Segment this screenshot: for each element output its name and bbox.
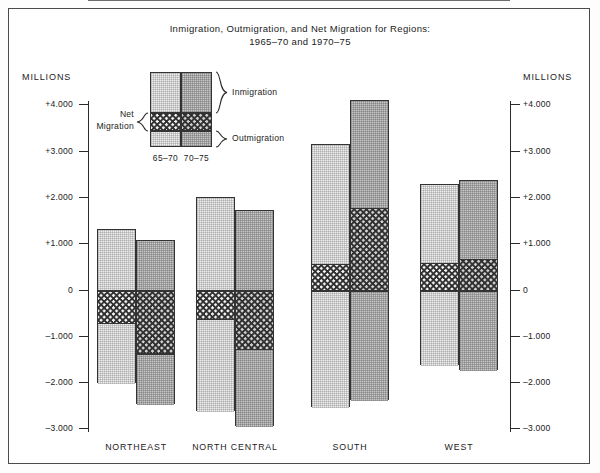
y-tick-label-right-0: 0	[523, 285, 528, 295]
legend-swatch-net-b	[181, 113, 212, 131]
bar-south-70–75	[350, 100, 389, 400]
y-axis-left	[88, 101, 89, 432]
net-band-edge-lower	[312, 290, 349, 291]
y-tick-right-0	[511, 290, 520, 291]
y-tick-left-–1.000	[79, 336, 88, 337]
segment-outmigration	[460, 291, 497, 371]
brace-outmigration-icon	[215, 130, 229, 148]
legend-label-net-line1: Net	[88, 109, 134, 119]
segment-net-migration	[351, 208, 388, 291]
legend-swatch-inmigration-a	[150, 72, 181, 113]
legend-swatch-net-a	[150, 113, 181, 131]
net-band-edge-lower	[351, 290, 388, 291]
segment-net-migration	[421, 263, 458, 291]
y-tick-left-+3.000	[79, 151, 88, 152]
y-tick-label-left-+1.000: +1.000	[45, 238, 73, 248]
y-tick-label-right-+3.000: +3.000	[523, 146, 551, 156]
segment-inmigration	[236, 211, 273, 291]
legend-swatch-inmigration-b	[181, 72, 212, 113]
y-tick-label-left-–2.000: –2.000	[46, 377, 74, 387]
legend-label-outmigration: Outmigration	[232, 133, 284, 143]
bar-south-65–70	[311, 144, 350, 407]
y-tick-label-right-–3.000: –3.000	[523, 423, 551, 433]
brace-inmigration-icon	[215, 71, 229, 114]
segment-outmigration	[351, 291, 388, 401]
y-tick-right-–1.000	[511, 336, 520, 337]
y-tick-right-–3.000	[511, 428, 520, 429]
net-band-edge-upper	[137, 290, 174, 291]
net-band-edge-upper	[312, 264, 349, 265]
bar-west-70–75	[459, 180, 498, 370]
segment-outmigration	[98, 323, 135, 384]
figure-page: Inmigration, Outmigration, and Net Migra…	[0, 0, 600, 473]
net-band-edge-lower	[137, 353, 174, 354]
net-band-edge-upper	[98, 290, 135, 291]
y-tick-label-left-+4.000: +4.000	[45, 99, 73, 109]
y-tick-label-left-–3.000: –3.000	[46, 423, 74, 433]
segment-outmigration	[197, 320, 234, 413]
y-tick-label-left-+3.000: +3.000	[45, 146, 73, 156]
net-band-edge-upper	[351, 208, 388, 209]
y-tick-label-left-+2.000: +2.000	[45, 192, 73, 202]
net-band-edge-lower	[460, 290, 497, 291]
legend-label-inmigration: Inmigration	[232, 87, 277, 97]
category-label-west: WEST	[390, 442, 528, 452]
chart-plot-area: +4.000+4.000+3.000+3.000+2.000+2.000+1.0…	[0, 0, 600, 473]
y-tick-right-+4.000	[511, 104, 520, 105]
segment-inmigration	[137, 241, 174, 291]
net-band-edge-upper	[460, 259, 497, 260]
y-tick-right-+3.000	[511, 151, 520, 152]
zero-baseline	[88, 0, 510, 1]
bar-northeast-65–70	[97, 229, 136, 383]
y-tick-left-+4.000	[79, 104, 88, 105]
bar-west-65–70	[420, 184, 459, 366]
y-tick-right-+2.000	[511, 197, 520, 198]
segment-inmigration	[460, 181, 497, 260]
y-tick-label-right-+2.000: +2.000	[523, 192, 551, 202]
segment-inmigration	[351, 101, 388, 208]
segment-net-migration	[137, 291, 174, 354]
bar-north-central-65–70	[196, 197, 235, 411]
net-band-edge-lower	[421, 290, 458, 291]
y-tick-left-+2.000	[79, 197, 88, 198]
legend-swatch-outmigration-a	[150, 131, 181, 147]
segment-net-migration	[236, 291, 273, 350]
legend-year-label-b: 70–75	[177, 153, 216, 163]
net-band-edge-upper	[421, 263, 458, 264]
bar-north-central-70–75	[235, 210, 274, 426]
y-tick-label-left-–1.000: –1.000	[46, 331, 74, 341]
legend-label-net-line2: Migration	[73, 121, 134, 131]
segment-net-migration	[460, 260, 497, 291]
segment-outmigration	[312, 291, 349, 408]
y-tick-left-0	[79, 290, 88, 291]
y-tick-left-+1.000	[79, 243, 88, 244]
net-band-edge-upper	[197, 290, 234, 291]
y-tick-label-right-+1.000: +1.000	[523, 238, 551, 248]
segment-outmigration	[236, 350, 273, 427]
y-tick-right-+1.000	[511, 243, 520, 244]
segment-inmigration	[98, 230, 135, 291]
y-tick-right-–2.000	[511, 382, 520, 383]
segment-inmigration	[312, 145, 349, 264]
segment-inmigration	[197, 198, 234, 291]
net-band-edge-lower	[98, 323, 135, 324]
y-tick-label-left-0: 0	[68, 285, 73, 295]
segment-net-migration	[312, 264, 349, 291]
segment-outmigration	[137, 354, 174, 405]
segment-net-migration	[98, 291, 135, 323]
legend-swatch-outmigration-b	[181, 131, 212, 147]
y-tick-label-right-–2.000: –2.000	[523, 377, 551, 387]
net-band-edge-lower	[197, 319, 234, 320]
brace-net-migration-icon	[135, 112, 149, 132]
y-tick-label-right-+4.000: +4.000	[523, 99, 551, 109]
y-tick-label-right-–1.000: –1.000	[523, 331, 551, 341]
segment-net-migration	[197, 291, 234, 320]
net-band-edge-lower	[236, 349, 273, 350]
y-tick-left-–2.000	[79, 382, 88, 383]
segment-inmigration	[421, 185, 458, 264]
y-tick-left-–3.000	[79, 428, 88, 429]
net-band-edge-upper	[236, 290, 273, 291]
bar-northeast-70–75	[136, 240, 175, 403]
segment-outmigration	[421, 291, 458, 366]
